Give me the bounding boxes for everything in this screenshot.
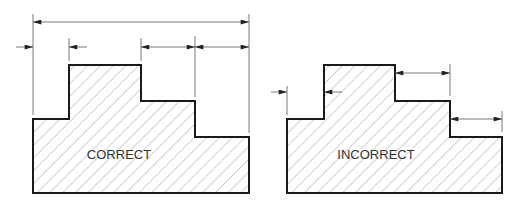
incorrect-label: INCORRECT xyxy=(337,147,414,162)
incorrect-figure: INCORRECT xyxy=(271,64,502,193)
correct-dimension-lines xyxy=(16,22,249,47)
dimensioning-diagram: CORRECT INCORRECT xyxy=(0,0,519,204)
correct-label: CORRECT xyxy=(87,147,151,162)
incorrect-part-outline xyxy=(287,65,502,193)
correct-part-outline xyxy=(33,65,249,193)
correct-figure: CORRECT xyxy=(16,14,249,193)
